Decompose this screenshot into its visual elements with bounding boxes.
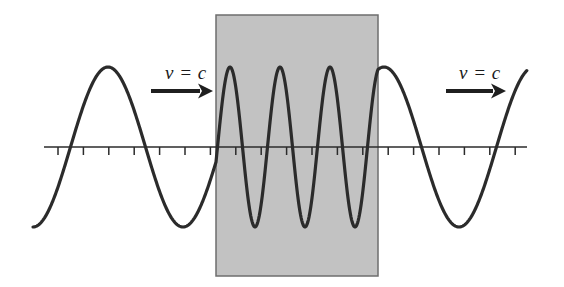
velocity-arrow-head bbox=[491, 84, 506, 99]
left-velocity-label: v = c bbox=[165, 62, 207, 84]
medium-slab bbox=[216, 15, 378, 276]
wave-diagram-figure: v = c v = c bbox=[0, 0, 564, 287]
axis-tick-marks bbox=[58, 147, 515, 155]
wave-plot-svg bbox=[0, 0, 564, 287]
right-velocity-label: v = c bbox=[459, 62, 501, 84]
velocity-arrow-head bbox=[198, 84, 213, 99]
medium-slab-rect bbox=[216, 15, 378, 276]
